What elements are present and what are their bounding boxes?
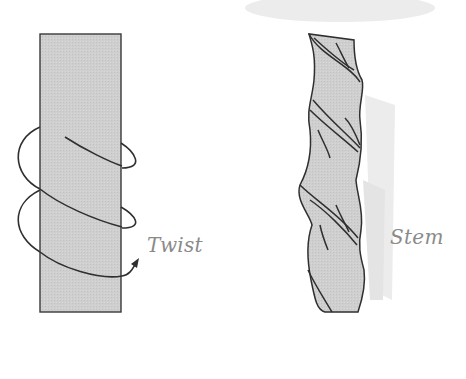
arrowhead-icon xyxy=(131,258,139,268)
twist-stem-diagram xyxy=(0,0,466,379)
twist-panel xyxy=(18,34,139,312)
stem-panel xyxy=(299,34,365,312)
helix-back-strokes xyxy=(18,127,40,252)
rectangular-bar xyxy=(40,34,121,312)
twist-label: Twist xyxy=(147,233,203,257)
stem-label: Stem xyxy=(390,225,444,249)
